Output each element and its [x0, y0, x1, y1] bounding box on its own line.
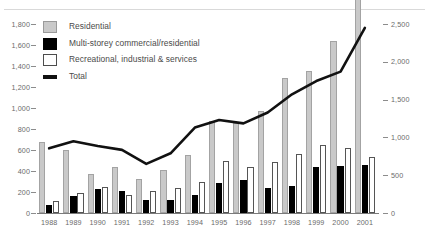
left-axis-tick-label: 1,400	[0, 62, 30, 71]
left-axis-tick-mark	[31, 213, 36, 214]
chart-figure: Residential Multi-storey commercial/resi…	[0, 0, 429, 239]
left-axis-tick-label: 1,000	[0, 104, 30, 113]
right-axis-tick-label: 2,500	[391, 20, 425, 29]
right-axis-tick-mark	[383, 175, 388, 176]
left-axis-tick-mark	[31, 129, 36, 130]
left-axis-tick-label: 1,800	[0, 20, 30, 29]
left-axis-tick-mark	[31, 45, 36, 46]
left-axis-tick-mark	[31, 87, 36, 88]
left-axis-tick-label: 600	[0, 146, 30, 155]
right-axis-tick-mark	[383, 137, 388, 138]
total-line-layer	[37, 24, 377, 213]
axis-baseline	[37, 213, 379, 214]
left-axis-tick-mark	[31, 24, 36, 25]
left-axis-tick-label: 0	[0, 209, 30, 218]
right-axis-tick-mark	[383, 213, 388, 214]
left-axis-tick-label: 800	[0, 125, 30, 134]
right-axis-tick-label: 1,500	[391, 95, 425, 104]
left-axis-tick-mark	[31, 66, 36, 67]
left-axis-tick-mark	[31, 171, 36, 172]
right-axis-tick-mark	[383, 62, 388, 63]
total-line-path	[49, 28, 365, 164]
left-axis-tick-label: 1,600	[0, 41, 30, 50]
right-axis-tick-label: 2,000	[391, 57, 425, 66]
category-tick-label: 2001	[350, 218, 380, 227]
plot-area	[37, 24, 377, 213]
left-axis-tick-mark	[31, 150, 36, 151]
right-axis-tick-label: 500	[391, 171, 425, 180]
left-axis-tick-label: 1,200	[0, 83, 30, 92]
left-axis-tick-mark	[31, 192, 36, 193]
left-axis-tick-mark	[31, 108, 36, 109]
right-axis-tick-mark	[383, 100, 388, 101]
right-axis-tick-label: 0	[391, 209, 425, 218]
left-axis-tick-label: 400	[0, 167, 30, 176]
right-axis-tick-mark	[383, 24, 388, 25]
right-axis-tick-label: 1,000	[391, 133, 425, 142]
top-divider-rule	[4, 9, 425, 10]
left-axis-tick-label: 200	[0, 188, 30, 197]
